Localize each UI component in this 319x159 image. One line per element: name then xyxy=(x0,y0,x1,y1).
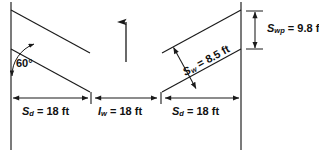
angle-label: 60° xyxy=(16,58,33,69)
dimension-label-stall-width-parallel: Swp = 9.8 ft xyxy=(267,23,319,35)
left-stall-line-lower xyxy=(11,49,90,92)
value-18: 18 xyxy=(119,105,131,117)
unit-ft: ft xyxy=(62,105,69,117)
equals-sign: = xyxy=(110,105,116,117)
unit-ft: ft xyxy=(135,105,142,117)
subscript-w: w xyxy=(101,109,107,118)
value-18: 18 xyxy=(47,105,59,117)
equals-sign: = xyxy=(187,105,193,117)
equals-sign: = xyxy=(37,105,43,117)
value-98: 9.8 xyxy=(297,22,312,34)
unit-ft: ft xyxy=(316,22,319,34)
dimension-label-aisle-width: Iw = 18 ft xyxy=(98,106,142,118)
value-18: 18 xyxy=(197,105,209,117)
subscript-d: d xyxy=(179,109,184,118)
subscript-wp: wp xyxy=(274,26,284,35)
left-stall-line-upper xyxy=(11,10,90,53)
dimension-label-stall-depth-left: Sd = 18 ft xyxy=(22,106,69,118)
parking-stall-diagram: 60° Sd = 18 ft Iw = 18 ft Sd = 18 ft Sw … xyxy=(0,0,319,159)
unit-ft: ft xyxy=(212,105,219,117)
equals-sign: = xyxy=(288,22,294,34)
right-stall-line-upper xyxy=(162,10,241,53)
subscript-d: d xyxy=(29,109,34,118)
dimension-label-stall-depth-right: Sd = 18 ft xyxy=(172,106,219,118)
